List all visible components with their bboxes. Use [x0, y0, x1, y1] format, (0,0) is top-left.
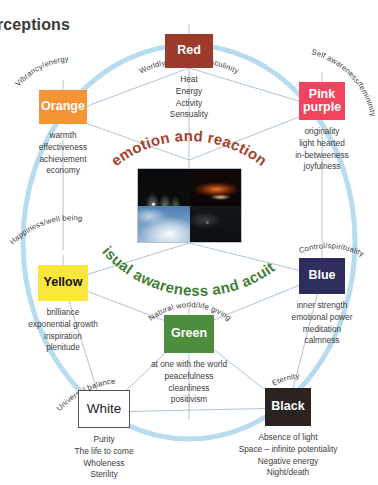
svg-text:Eternity: Eternity [270, 371, 299, 388]
color-perception-diagram: Worldly success/masculinity Vibrancy/ene… [0, 0, 378, 485]
svg-text:Vibrancy/energy: Vibrancy/energy [13, 54, 69, 88]
attr-black-0: Absence of light [239, 432, 338, 444]
arc-label-yellow: Happiness/well being [8, 213, 83, 246]
attr-blue-2: meditation [292, 324, 353, 336]
attr-white-1: The life to come [74, 446, 133, 458]
attr-yellow-3: plenitude [28, 342, 98, 354]
attr-orange-1: effectiveness [39, 142, 87, 154]
swatch-pink-purple[interactable]: Pink purple [299, 82, 345, 120]
attributes-orange: warmth effectiveness achievement economy [39, 130, 87, 177]
attr-green-2: cleanliness [151, 383, 227, 395]
swatch-red[interactable]: Red [165, 34, 213, 68]
photo-fireworks-water-arcs-night [138, 169, 190, 206]
swatch-yellow[interactable]: Yellow [38, 265, 88, 301]
attr-black-2: Negative energy [239, 456, 338, 468]
svg-text:Happiness/well being: Happiness/well being [8, 213, 83, 246]
attr-green-1: peacefulness [151, 371, 227, 383]
swatch-orange[interactable]: Orange [39, 90, 87, 124]
attr-black-3: Night/death [239, 467, 338, 479]
swatch-blue[interactable]: Blue [299, 258, 345, 294]
photo-blue-sky-with-clouds [138, 206, 190, 243]
attr-yellow-0: brilliance [28, 307, 98, 319]
attr-white-3: Sterility [74, 469, 133, 481]
attributes-blue: inner strength emotional power meditatio… [292, 300, 353, 347]
attr-blue-3: calmness [292, 335, 353, 347]
attr-white-2: Wholeness [74, 458, 133, 470]
attr-red-1: Energy [170, 86, 208, 98]
attributes-pink-purple: originality light hearted in-betweeness … [295, 126, 349, 173]
attr-red-3: Sensuality [170, 109, 208, 121]
arc-label-black-text: Eternity [270, 371, 299, 388]
attributes-green: at one with the world peacefulness clean… [151, 359, 227, 406]
attributes-black: Absence of light Space – infinite potent… [239, 432, 338, 479]
attr-green-0: at one with the world [151, 359, 227, 371]
attr-red-2: Activity [170, 98, 208, 110]
arc-label-orange-text: Vibrancy/energy [13, 54, 69, 88]
center-photo-grid [137, 168, 242, 243]
photo-orange-fire-glow-night [190, 169, 242, 206]
swatch-green[interactable]: Green [164, 315, 214, 353]
attr-orange-3: economy [39, 165, 87, 177]
attr-pink-purple-0: originality [295, 126, 349, 138]
attr-pink-purple-3: joyfulness [295, 161, 349, 173]
attr-green-3: positivism [151, 394, 227, 406]
arc-label-orange: Vibrancy/energy [13, 54, 69, 88]
attr-yellow-2: inspiration [28, 331, 98, 343]
attr-blue-0: inner strength [292, 300, 353, 312]
attr-orange-0: warmth [39, 130, 87, 142]
attributes-white: Purity The life to come Wholeness Steril… [74, 434, 133, 481]
attr-pink-purple-2: in-betweeness [295, 150, 349, 162]
attr-white-0: Purity [74, 434, 133, 446]
attr-yellow-1: exponential growth [28, 319, 98, 331]
arc-label-black: Eternity [270, 371, 299, 388]
swatch-black[interactable]: Black [265, 388, 311, 426]
arc-label-yellow-text: Happiness/well being [8, 213, 83, 246]
attributes-yellow: brilliance exponential growth inspiratio… [28, 307, 98, 354]
swatch-white[interactable]: White [78, 390, 130, 428]
attr-red-0: Heat [170, 74, 208, 86]
attr-blue-1: emotional power [292, 312, 353, 324]
photo-dark-night-landscape [190, 206, 242, 243]
page-title: erceptions [0, 16, 70, 34]
attributes-red: Heat Energy Activity Sensuality [170, 74, 208, 121]
attr-orange-2: achievement [39, 154, 87, 166]
attr-black-1: Space – infinite potentiality [239, 444, 338, 456]
attr-pink-purple-1: light hearted [295, 138, 349, 150]
